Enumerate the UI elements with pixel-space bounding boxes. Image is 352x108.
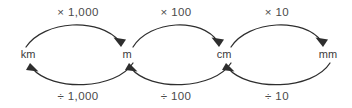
unit-conversion-diagram: km m cm mm × 1,000 × 100 × 10 ÷ 1,000 ÷ …	[0, 0, 352, 108]
divide-arc-path-2	[131, 63, 231, 85]
divide-label-mm-to-cm: ÷ 10	[265, 90, 289, 102]
divide-label-m-to-km: ÷ 1,000	[57, 90, 98, 102]
divide-arrow-m-to-km	[26, 63, 133, 85]
unit-label-mm: mm	[319, 48, 337, 60]
multiply-arc-path-2	[133, 25, 218, 47]
arrowhead-into-km-bottom	[26, 63, 39, 72]
multiply-arrow-m-to-cm	[133, 25, 224, 47]
multiply-label-cm-to-mm: × 10	[265, 6, 289, 18]
conversion-chart-svg: km m cm mm × 1,000 × 100 × 10 ÷ 1,000 ÷ …	[0, 0, 352, 108]
unit-label-cm: cm	[217, 48, 232, 60]
unit-label-km: km	[21, 48, 36, 60]
multiply-label-m-to-cm: × 100	[160, 6, 191, 18]
multiply-arc-path-1	[26, 25, 120, 47]
divide-arrow-mm-to-cm	[222, 63, 330, 85]
arrowhead-into-cm-top	[212, 38, 225, 48]
arrowhead-into-cm-bottom	[222, 63, 235, 72]
divide-arc-path-3	[228, 63, 330, 85]
unit-label-m: m	[122, 48, 131, 60]
arrowhead-into-mm-top	[316, 38, 329, 48]
arrowhead-into-m-top	[114, 38, 127, 48]
divide-label-cm-to-m: ÷ 100	[161, 90, 192, 102]
arrowhead-into-m-bottom	[125, 63, 138, 72]
multiply-arc-path-3	[231, 25, 322, 47]
divide-arrow-cm-to-m	[125, 63, 231, 85]
multiply-arrow-km-to-m	[26, 25, 126, 47]
multiply-arrow-cm-to-mm	[231, 25, 328, 47]
multiply-label-km-to-m: × 1,000	[57, 6, 99, 18]
divide-arc-path-1	[32, 63, 133, 85]
